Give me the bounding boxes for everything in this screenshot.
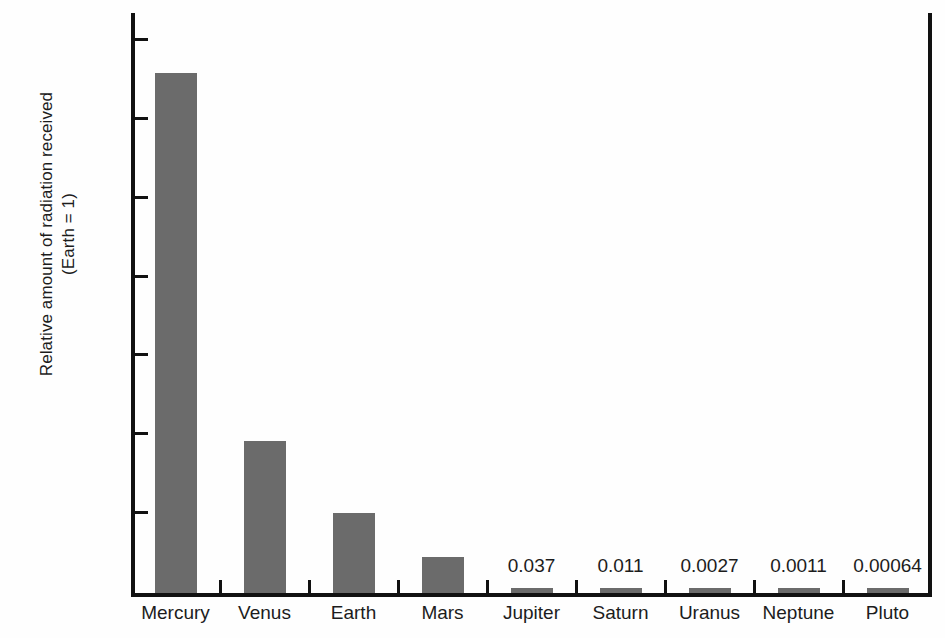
bar [867, 588, 909, 593]
bar [511, 588, 553, 593]
x-axis-tick [486, 580, 489, 593]
x-axis-tick [397, 580, 400, 593]
x-axis-tick [842, 580, 845, 593]
bar [244, 441, 286, 593]
right-border-line [928, 13, 932, 597]
y-axis-tick [135, 196, 148, 199]
bar [155, 73, 197, 593]
bar [689, 588, 731, 593]
x-axis-tick [664, 580, 667, 593]
x-axis-tick [753, 580, 756, 593]
bar [600, 588, 642, 593]
y-axis-tick [135, 432, 148, 435]
y-axis-tick [135, 275, 148, 278]
bar [333, 513, 375, 593]
x-axis-category-label: Pluto [818, 602, 945, 624]
y-axis-title-line-1: Relative amount of radiation received [37, 92, 56, 376]
y-axis-title-line-2: (Earth = 1) [58, 24, 80, 444]
y-axis-tick [135, 353, 148, 356]
x-axis-tick [219, 580, 222, 593]
bar [422, 557, 464, 593]
y-axis-line [131, 13, 135, 597]
y-axis-tick [135, 117, 148, 120]
bar [778, 588, 820, 593]
x-axis-tick [575, 580, 578, 593]
bar-value-label: 0.00064 [828, 556, 945, 575]
y-axis-tick [135, 511, 148, 514]
bar-chart: Relative amount of radiation received (E… [0, 0, 945, 638]
plot-area: 0.0370.0110.00270.00110.00064 [131, 13, 932, 597]
y-axis-title: Relative amount of radiation received (E… [14, 24, 58, 444]
x-axis-line [131, 593, 932, 597]
y-axis-tick [135, 38, 148, 41]
x-axis-tick [308, 580, 311, 593]
